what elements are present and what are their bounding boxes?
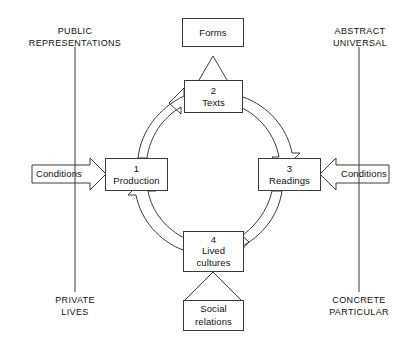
- block-arrow-production-to-texts: [138, 88, 184, 158]
- node-social-relations[interactable]: Social relations: [183, 300, 244, 331]
- conditions-label-left: Conditions: [36, 168, 82, 179]
- node-texts-number: 2: [211, 85, 216, 96]
- connector-lived-social-left: [185, 272, 241, 300]
- node-texts[interactable]: 2 Texts: [184, 80, 243, 113]
- circuit-of-culture-diagram: Forms 2 Texts 1 Production 3 Readings 4 …: [0, 0, 413, 349]
- node-social-relations-label2: relations: [195, 316, 232, 328]
- axis-label-concrete-particular: CONCRETE PARTICULAR: [313, 294, 405, 318]
- axis-label-abstract-universal: ABSTRACT UNIVERSAL: [318, 25, 402, 49]
- node-lived-cultures-number: 4: [211, 234, 216, 245]
- node-production[interactable]: 1 Production: [105, 158, 168, 191]
- node-social-relations-label: Social: [200, 303, 226, 315]
- node-lived-cultures-label2: cultures: [196, 257, 230, 269]
- node-production-number: 1: [134, 163, 139, 174]
- node-readings-label: Readings: [269, 175, 310, 186]
- conditions-label-right: Conditions: [341, 168, 387, 179]
- node-texts-label: Texts: [202, 97, 225, 108]
- axis-label-public-representations: PUBLIC REPRESENTATIONS: [8, 25, 142, 49]
- node-readings-number: 3: [287, 163, 292, 174]
- node-readings[interactable]: 3 Readings: [258, 158, 321, 191]
- node-forms[interactable]: Forms: [182, 18, 244, 47]
- connector-texts-forms: [199, 56, 227, 80]
- axis-label-private-lives: PRIVATE LIVES: [29, 294, 121, 318]
- node-lived-cultures[interactable]: 4 Lived cultures: [183, 231, 244, 272]
- node-forms-label: Forms: [199, 27, 226, 38]
- node-production-label: Production: [113, 175, 159, 186]
- node-lived-cultures-label: Lived: [202, 245, 225, 257]
